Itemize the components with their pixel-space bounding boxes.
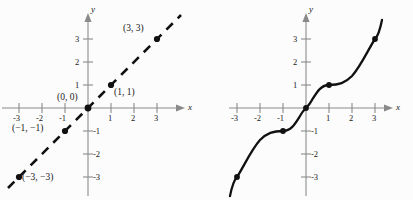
left-xtick-label-3: 3 xyxy=(154,114,158,123)
left-ytick-label-1: 1 xyxy=(75,81,79,90)
right-xtick-label--3: -3 xyxy=(231,114,238,123)
right-xtick-label-2: 2 xyxy=(349,114,353,123)
point-0-0 xyxy=(85,105,92,112)
right-ytick-label--1: -1 xyxy=(311,127,318,136)
left-ytick-label--3: -3 xyxy=(93,173,100,182)
right-ytick-label--2: -2 xyxy=(311,150,318,159)
point-label-1-1: (1, 1) xyxy=(114,88,135,98)
point-label-neg1-neg1: (−1, −1) xyxy=(12,124,43,134)
left-ytick-label--1: -1 xyxy=(93,127,100,136)
right-ytick-label-3: 3 xyxy=(293,35,297,44)
left-xtick-label-1: 1 xyxy=(108,114,112,123)
s-curve-graph-panel: -3 -2 -1 1 2 3 3 2 1 -1 -2 -3 x y xyxy=(207,0,413,200)
point-label-0-0: (0, 0) xyxy=(57,93,78,103)
right-xtick-label-1: 1 xyxy=(326,114,330,123)
right-ytick-label-1: 1 xyxy=(293,81,297,90)
curve-point-3-3 xyxy=(372,36,378,42)
right-x-axis-label: x xyxy=(396,103,400,112)
point-label-neg3-neg3: (−3, −3) xyxy=(22,173,53,183)
two-panel-graph-figure: -3 -2 -1 1 2 3 3 2 1 -1 -2 -3 x y (3, 3)… xyxy=(0,0,413,200)
point-neg1-neg1 xyxy=(62,128,68,134)
left-xtick-label--1: -1 xyxy=(59,114,66,123)
left-ytick-label-3: 3 xyxy=(75,35,79,44)
right-ytick-label--3: -3 xyxy=(311,173,318,182)
left-ytick-label--2: -2 xyxy=(93,150,100,159)
left-xtick-label--2: -2 xyxy=(36,114,43,123)
left-xtick-label-2: 2 xyxy=(131,114,135,123)
right-y-axis-label: y xyxy=(309,5,313,14)
left-x-axis-label: x xyxy=(188,103,192,112)
right-xtick-label--2: -2 xyxy=(254,114,261,123)
curve-point-neg1-neg1 xyxy=(280,128,286,134)
dashed-line-graph-panel: -3 -2 -1 1 2 3 3 2 1 -1 -2 -3 x y (3, 3)… xyxy=(0,0,207,200)
right-ytick-label-2: 2 xyxy=(293,58,297,67)
curve-point-0-0 xyxy=(303,105,309,111)
right-xtick-label-3: 3 xyxy=(372,114,376,123)
left-ytick-label-2: 2 xyxy=(75,58,79,67)
right-xtick-label--1: -1 xyxy=(277,114,284,123)
curve-point-neg3-neg3 xyxy=(234,174,240,180)
point-3-3 xyxy=(154,36,160,42)
right-x-axis xyxy=(229,104,393,111)
left-xtick-label--3: -3 xyxy=(13,114,20,123)
left-y-axis-label: y xyxy=(91,5,95,14)
left-graph-svg xyxy=(0,0,207,200)
point-label-3-3: (3, 3) xyxy=(123,24,144,34)
curve-point-1-1 xyxy=(326,82,332,88)
right-graph-svg xyxy=(207,0,413,200)
